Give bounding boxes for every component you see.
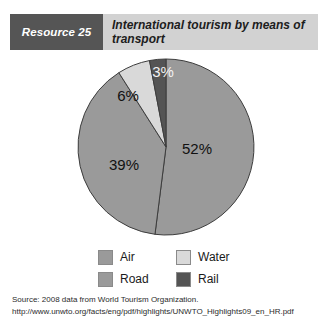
page-title: International tourism by means of transp… (112, 18, 312, 47)
resource-header: Resource 25 International tourism by mea… (10, 14, 318, 50)
legend-item-road[interactable]: Road (98, 272, 176, 287)
resource-number-badge: Resource 25 (10, 14, 103, 50)
source-line-citation: Source: 2008 data from World Tourism Org… (12, 294, 322, 306)
legend-item-air[interactable]: Air (98, 250, 176, 265)
resource-title-container: International tourism by means of transp… (103, 14, 318, 50)
chart-legend: Air Water Road Rail (98, 246, 268, 290)
pie-label-rail: 3% (152, 63, 174, 80)
pie-chart-svg: 52% 39% 6% 3% (77, 58, 255, 236)
chart-area: 52% 39% 6% 3% (0, 52, 326, 246)
legend-swatch-water (176, 250, 191, 265)
pie-chart: 52% 39% 6% 3% (77, 58, 255, 236)
legend-swatch-road (98, 272, 113, 287)
legend-swatch-air (98, 250, 113, 265)
source-note: Source: 2008 data from World Tourism Org… (12, 294, 322, 317)
legend-item-water[interactable]: Water (176, 250, 268, 265)
legend-label-air: Air (120, 250, 135, 264)
legend-label-rail: Rail (198, 272, 219, 286)
source-line-url[interactable]: http://www.unwto.org/facts/eng/pdf/highl… (12, 306, 322, 318)
legend-item-rail[interactable]: Rail (176, 272, 268, 287)
resource-card: Resource 25 International tourism by mea… (0, 0, 326, 323)
pie-label-road: 39% (109, 156, 139, 173)
legend-label-road: Road (120, 272, 149, 286)
resource-number-label: Resource 25 (22, 26, 92, 38)
legend-label-water: Water (198, 250, 230, 264)
legend-swatch-rail (176, 272, 191, 287)
pie-label-air: 52% (182, 140, 212, 157)
pie-label-water: 6% (117, 87, 139, 104)
